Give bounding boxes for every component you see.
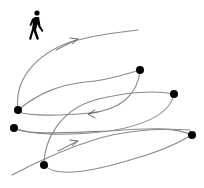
trajectory-segment-8	[44, 135, 192, 172]
waypoint-node-c	[136, 66, 144, 74]
pedestrian-walking-icon	[29, 10, 44, 40]
trajectory-segment-3	[18, 70, 140, 115]
waypoint-node-b	[10, 124, 18, 132]
waypoint-node-a	[14, 106, 22, 114]
waypoint-node-d	[170, 90, 178, 98]
waypoint-node-f	[40, 161, 48, 169]
trajectory-segment-2	[18, 70, 140, 110]
trajectory-diagram: Trajectory diagram of a pedestrian movin…	[0, 0, 204, 188]
direction-arrow-icon	[56, 38, 78, 50]
waypoint-node-e	[188, 131, 196, 139]
direction-arrow-icon	[88, 110, 98, 118]
